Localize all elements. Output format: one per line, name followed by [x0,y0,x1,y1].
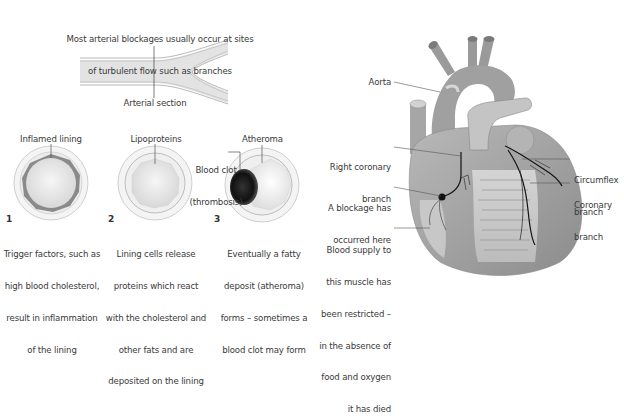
label-line: Coronary [574,200,624,211]
label-line: Blood supply to [316,245,391,256]
stage-1-number: 1 [6,214,12,224]
clot-label-line: (thrombosis) [186,197,246,208]
blood-supply-label: Blood supply to this muscle has been res… [316,224,391,416]
caption-line: Lining cells release [100,249,212,260]
caption-line: deposited on the lining [100,376,212,387]
label-line: been restricted – [316,309,391,320]
stage-2-label: Lipoproteins [115,134,197,145]
caption-line: forms – sometimes a [212,313,316,324]
blockage-marker [439,194,446,201]
arterial-section-label: Arterial section [110,98,200,109]
caption-line: result in inflammation [0,313,104,324]
artery-title-line-2: of turbulent flow such as branches [60,66,260,77]
aorta-label: Aorta [330,77,391,88]
caption-line: blood clot may form [212,345,316,356]
artery-title-line-1: Most arterial blockages usually occur at… [60,34,260,45]
caption-line: high blood cholesterol, [0,281,104,292]
caption-line: with the cholesterol and [100,313,212,324]
caption-line: Eventually a fatty [212,249,316,260]
label-line: it has died [316,404,391,415]
stage-1-label: Inflamed lining [10,134,92,145]
blood-clot-label: Blood clot (thrombosis) [186,144,246,218]
label-line: branch [574,232,624,243]
artery-title: Most arterial blockages usually occur at… [60,13,260,87]
coronary-label: Coronary branch [574,179,624,253]
clot-label-line: Blood clot [186,165,246,176]
label-line: Right coronary [320,162,391,173]
stage-3-caption: Eventually a fatty deposit (atheroma) fo… [212,228,316,366]
caption-line: deposit (atheroma) [212,281,316,292]
label-line: in the absence of [316,341,391,352]
stage-3-number: 3 [214,214,220,224]
caption-line: other fats and are [100,345,212,356]
stage-2-number: 2 [108,214,114,224]
stage-3-label: Atheroma [225,134,300,145]
stage-1-caption: Trigger factors, such as high blood chol… [0,228,104,366]
label-line: food and oxygen [316,372,391,383]
caption-line: Trigger factors, such as [0,249,104,260]
heart-illustration [409,36,582,276]
label-line: A blockage has [320,203,391,214]
stage-1-cross-section [14,144,88,220]
caption-line: proteins which react [100,281,212,292]
caption-line: of the lining [0,345,104,356]
label-line: this muscle has [316,277,391,288]
stage-2-cross-section [118,144,192,220]
stage-2-caption: Lining cells release proteins which reac… [100,228,212,398]
